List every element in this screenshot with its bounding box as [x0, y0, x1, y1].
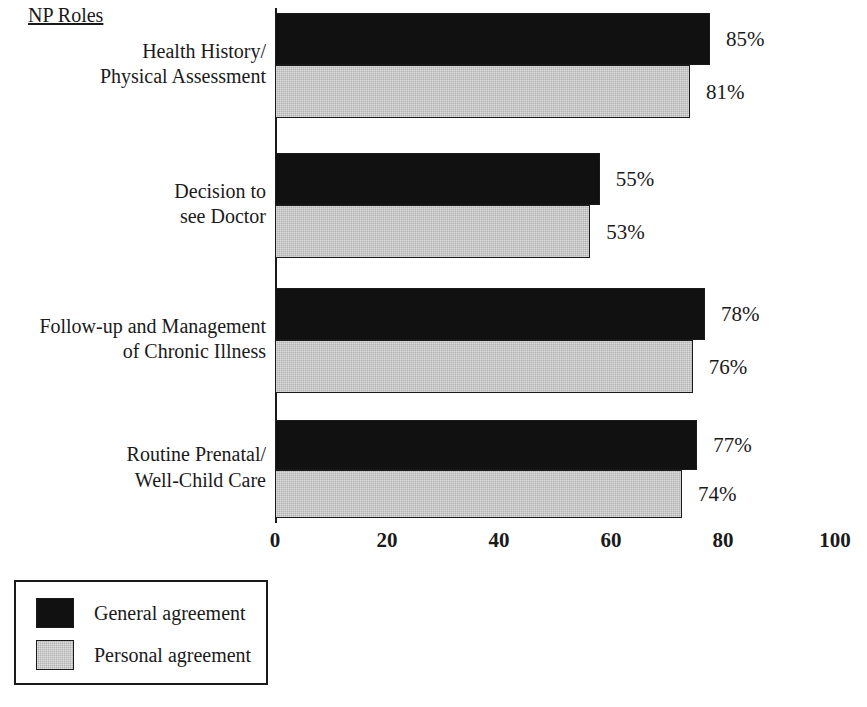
- np-roles-axis-title: NP Roles: [28, 4, 103, 27]
- category-label-0: Health History/ Physical Assessment: [100, 39, 266, 90]
- bar-general-1: [275, 153, 600, 205]
- value-label-personal-3: 74%: [698, 484, 737, 505]
- bar-general-3: [275, 420, 697, 470]
- value-label-general-0: 85%: [726, 29, 765, 50]
- chart-legend: General agreementPersonal agreement: [14, 580, 268, 685]
- legend-swatch-general-icon: [36, 598, 74, 628]
- bar-general-0: [275, 13, 710, 65]
- legend-item-personal[interactable]: Personal agreement: [36, 640, 251, 670]
- x-axis-tick-group: 020406080100: [275, 528, 835, 558]
- x-tick-label-80: 80: [713, 528, 734, 553]
- bar-general-2: [275, 288, 705, 340]
- value-label-personal-0: 81%: [706, 82, 745, 103]
- legend-swatch-personal-icon: [36, 640, 74, 670]
- x-tick-label-60: 60: [601, 528, 622, 553]
- value-label-general-1: 55%: [616, 169, 655, 190]
- legend-label-general: General agreement: [94, 602, 246, 625]
- legend-item-general[interactable]: General agreement: [36, 598, 246, 628]
- bar-personal-0: [275, 65, 690, 118]
- plot-area: 85%81%55%53%78%76%77%74%: [275, 8, 835, 523]
- category-label-3: Routine Prenatal/ Well-Child Care: [127, 442, 266, 493]
- x-tick-label-40: 40: [489, 528, 510, 553]
- x-tick-label-20: 20: [377, 528, 398, 553]
- category-label-1: Decision to see Doctor: [174, 179, 266, 230]
- value-label-personal-1: 53%: [606, 222, 645, 243]
- bar-personal-1: [275, 205, 590, 258]
- value-label-general-3: 77%: [713, 435, 752, 456]
- value-label-general-2: 78%: [721, 304, 760, 325]
- x-tick-label-100: 100: [819, 528, 851, 553]
- bar-personal-3: [275, 470, 682, 518]
- bar-personal-2: [275, 340, 693, 393]
- category-label-2: Follow-up and Management of Chronic Illn…: [39, 314, 266, 365]
- legend-label-personal: Personal agreement: [94, 644, 251, 667]
- x-tick-label-0: 0: [270, 528, 281, 553]
- value-label-personal-2: 76%: [709, 357, 748, 378]
